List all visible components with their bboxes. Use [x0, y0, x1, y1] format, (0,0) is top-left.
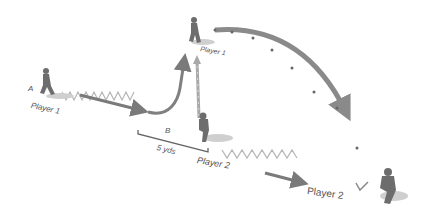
player-2-end-figure [380, 168, 408, 204]
marker-a-label: A [28, 84, 33, 93]
check-mark-icon [356, 182, 368, 190]
player-1-start-figure [40, 68, 74, 99]
player-2-mid-figure [199, 113, 233, 143]
curved-run-arrow [148, 62, 184, 113]
vertical-ladder [193, 55, 201, 118]
ball-path-arrow [215, 30, 345, 110]
run-arrow-player-2 [265, 173, 300, 182]
marker-b-label: B [165, 126, 170, 135]
cone-row-player-2 [222, 150, 297, 158]
player-1-top-figure [189, 17, 215, 45]
drill-diagram: A B Player 1 Player 1 5 yds Player 2 Pla… [0, 0, 423, 220]
